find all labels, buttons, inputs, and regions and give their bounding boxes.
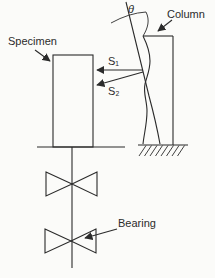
bearing-label: Bearing — [118, 217, 156, 229]
specimen-leader-arrow — [35, 50, 50, 61]
column-deformed-left-edge — [143, 36, 150, 144]
specimen-label: Specimen — [8, 35, 57, 47]
bearing-upper-right-triangle — [72, 172, 97, 196]
bearing-lower-right-triangle — [71, 229, 96, 253]
ground-hatch — [139, 146, 185, 157]
column-label: Column — [167, 8, 205, 20]
specimen-rect — [53, 55, 93, 147]
column-leader-arrow — [158, 20, 172, 31]
column-inclined-axis-line — [126, 2, 160, 144]
bearing-lower — [45, 229, 96, 253]
s2-sensor-arrow — [97, 72, 143, 85]
bearing-upper-left-triangle — [46, 172, 72, 196]
diagram-canvas: Specimen Column θ S₁ S₂ Bearing — [0, 0, 215, 278]
column-corner-curve — [143, 12, 148, 36]
test-setup-diagram: Specimen Column θ S₁ S₂ Bearing — [0, 0, 215, 278]
bearing-lower-left-triangle — [45, 229, 71, 253]
bearing-leader-arrow — [85, 229, 117, 238]
s1-label: S₁ — [108, 55, 119, 67]
theta-label: θ — [128, 3, 134, 15]
s2-label: S₂ — [108, 85, 120, 97]
